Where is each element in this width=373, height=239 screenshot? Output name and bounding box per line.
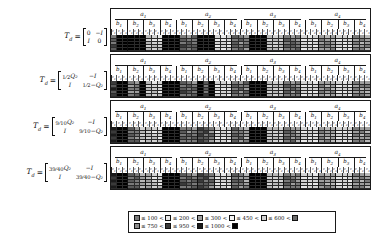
grid-b-block-1 [319,127,335,144]
header-b-groups: b1b2b3b4b1b2b3b4b1b2b3b4b1b2b3b4 [111,158,370,167]
group-b-1: b1 [111,20,127,29]
matrix-cell-1: 1⁄2Q₂ [62,72,77,80]
grid-b-block-2 [335,173,352,190]
group-b-3: b3 [143,20,159,29]
grid-b-block-4 [162,173,179,190]
grid-a-block-3 [249,127,318,144]
legend-row1-swatch-2 [165,215,171,221]
group-b-label: b3 [149,158,155,167]
grid-b-block-4 [162,81,179,98]
group-b-3: b3 [273,20,289,29]
formula-matrix: 0−II0 [83,28,107,46]
formula-row-1: Td=0−II0 [0,14,110,59]
grid-b-block-2 [266,35,283,52]
grid-b-block-3 [214,173,231,190]
grid-b-block-2 [335,81,352,98]
grid-b-block-1 [319,81,335,98]
group-b-3: b3 [338,112,354,121]
grid-a-block-2 [179,173,248,190]
group-a-3: a3 [241,101,306,112]
matrix-cell-2: −I [76,164,103,172]
bracket-right [104,163,107,182]
legend-row1-text-4: ≤ 450 < [236,215,259,221]
formula-lhs: Td [33,121,41,132]
grid-b-block-2 [197,81,214,98]
group-b-label: b3 [278,20,284,29]
grid-b-block-3 [352,81,369,98]
grid-b-block-3 [214,81,231,98]
heatmap-grid [111,173,370,190]
group-b-label: b2 [327,20,333,29]
grid-b-block-3 [283,35,300,52]
group-b-2: b2 [257,66,273,75]
group-a-4: a4 [305,55,370,66]
group-b-3: b3 [143,66,159,75]
group-b-2: b2 [321,66,337,75]
grid-a-block-1 [111,173,179,190]
grid-b-block-3 [352,35,369,52]
grid-b-block-4 [300,81,317,98]
matrix-cell-3: I [87,37,91,45]
group-b-2: b2 [127,158,143,167]
group-b-3: b3 [208,20,224,29]
grid-a-block-3 [249,173,318,190]
group-b-1: b1 [241,112,257,121]
group-b-label: b2 [197,158,203,167]
matrix-cell-1: 9⁄10Q₂ [56,118,75,126]
group-b-1: b1 [305,20,321,29]
grid-b-block-3 [352,173,369,190]
column-c-label: c3 [366,167,370,172]
grid-b-block-4 [231,173,248,190]
legend-row2-text-3: ≤ 1000 < [205,223,231,229]
grid-a-block-3 [249,81,318,98]
formula-equals: = [74,32,80,41]
grid-b-block-3 [283,81,300,98]
group-b-3: b3 [143,158,159,167]
grid-b-block-2 [127,127,144,144]
group-b-label: b1 [311,112,317,121]
legend-row1-swatch-3 [197,215,203,221]
group-b-3: b3 [338,20,354,29]
group-b-4: b4 [354,112,370,121]
grid-a-block-2 [179,81,248,98]
legend-row1-text-2: ≤ 200 < [173,215,196,221]
group-b-label: b3 [343,158,349,167]
column-c-3: c3 [364,121,369,127]
group-b-4: b4 [160,20,176,29]
group-b-2: b2 [192,158,208,167]
legend-row-1: ≤ 100 <≤ 200 <≤ 300 <≤ 450 <≤ 600 < [132,214,332,222]
bracket-right [104,71,107,90]
bracket-right [104,117,107,136]
grid-b-block-3 [145,81,162,98]
group-b-label: b1 [246,66,252,75]
matrix-cell-4: 0 [96,37,103,45]
group-b-label: b2 [133,112,139,121]
group-b-label: b2 [197,66,203,75]
formula-matrix: 1⁄2Q₂−II1⁄2−Q₂ [58,71,107,90]
matrix-cell-1: 0 [87,29,91,37]
legend-row2-text-2: ≤ 950 < [173,223,196,229]
group-b-label: b3 [278,66,284,75]
grid-b-block-4 [231,35,248,52]
group-b-label: b4 [295,20,301,29]
heatmap-grid [111,127,370,144]
legend-row2-swatch-1 [134,223,140,229]
group-b-label: b2 [133,158,139,167]
group-b-label: b3 [278,158,284,167]
group-b-label: b4 [230,20,236,29]
group-b-label: b1 [311,158,317,167]
grid-b-block-2 [197,35,214,52]
group-b-1: b1 [241,20,257,29]
matrix-cell-1: 39⁄40Q₂ [49,164,71,172]
heatmap-panel-3: a1a2a3a4b1b2b3b4b1b2b3b4b1b2b3b4b1b2b3b4… [110,100,371,144]
group-b-label: b4 [359,112,365,121]
grid-b-block-1 [250,173,266,190]
grid-b-block-3 [283,173,300,190]
group-b-3: b3 [338,158,354,167]
grid-b-block-4 [300,127,317,144]
group-b-label: b2 [262,112,268,121]
group-b-4: b4 [289,20,305,29]
group-b-label: b3 [214,112,220,121]
grid-b-block-1 [180,173,196,190]
grid-b-block-4 [370,35,371,52]
